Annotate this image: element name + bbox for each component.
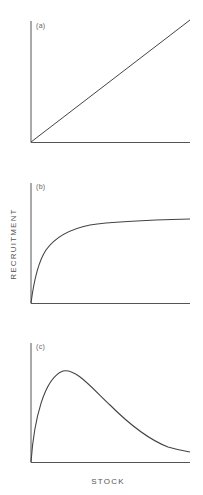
panel-b <box>31 183 190 304</box>
panel-b-label: (b) <box>36 183 45 190</box>
panel-c-label: (c) <box>36 343 45 350</box>
figure-canvas <box>0 0 203 495</box>
y-axis-title: RECRUITMENT <box>9 208 18 279</box>
panel-c-curve <box>31 371 190 462</box>
panel-c <box>31 343 190 463</box>
x-axis-title: STOCK <box>91 477 124 486</box>
panel-a-label: (a) <box>36 22 45 29</box>
panel-b-curve <box>31 219 190 303</box>
panel-a <box>31 20 190 143</box>
panel-a-curve <box>31 20 190 142</box>
